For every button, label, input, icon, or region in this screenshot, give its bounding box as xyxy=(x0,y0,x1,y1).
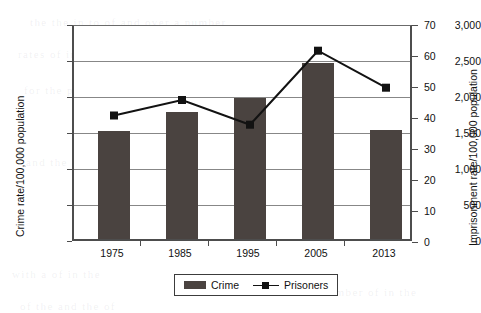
x-axis-separator xyxy=(140,241,141,246)
x-axis-label-2013: 2013 xyxy=(354,247,414,259)
y-axis-left-title: Crime rate/100,000 population xyxy=(14,96,26,237)
y-axis-left-tick-1000: 1,000 xyxy=(419,164,481,174)
x-axis-label-2005: 2005 xyxy=(286,247,346,259)
x-axis-separator xyxy=(344,241,345,246)
background-bleed-text: of the and the of xyxy=(20,300,116,312)
x-axis-separator xyxy=(276,241,277,246)
y-axis-right-tick-0: 0 xyxy=(424,237,430,247)
y-axis-right-tick-70: 70 xyxy=(424,20,436,30)
y-axis-right-tick-40: 40 xyxy=(424,113,436,123)
y-axis-right-tick-10: 10 xyxy=(424,206,436,216)
legend-label-prisoners: Prisoners xyxy=(284,279,328,291)
legend-item-crime: Crime xyxy=(184,279,239,291)
line-square-swatch-icon xyxy=(253,281,279,290)
x-axis-label-1975: 1975 xyxy=(82,247,142,259)
prisoners-line-path xyxy=(114,51,386,125)
crime-imprisonment-chart: the the in to of and over a number rates… xyxy=(0,0,481,313)
y-axis-left-tick-2000: 2,000 xyxy=(419,92,481,102)
y-axis-right-tick-60: 60 xyxy=(424,51,436,61)
prisoners-marker-1975 xyxy=(110,112,118,120)
plot-area xyxy=(72,25,412,241)
x-axis-label-1985: 1985 xyxy=(150,247,210,259)
prisoners-marker-2013 xyxy=(382,84,390,92)
prisoners-marker-1995 xyxy=(246,121,254,129)
y-axis-left-tickmark xyxy=(67,241,72,242)
prisoners-marker-1985 xyxy=(178,96,186,104)
prisoners-marker-2005 xyxy=(314,47,322,55)
y-axis-right-tickmark xyxy=(412,242,418,243)
legend-item-prisoners: Prisoners xyxy=(253,279,328,291)
y-axis-right-tick-20: 20 xyxy=(424,175,436,185)
bar-swatch-icon xyxy=(184,281,206,289)
x-axis-label-1995: 1995 xyxy=(218,247,278,259)
y-axis-right-tick-50: 50 xyxy=(424,82,436,92)
y-axis-right-tick-30: 30 xyxy=(424,144,436,154)
legend-label-crime: Crime xyxy=(211,279,239,291)
background-bleed-text: with a of in the xyxy=(12,268,101,280)
chart-legend: Crime Prisoners xyxy=(174,274,338,296)
y-axis-left-tick-1500: 1,500 xyxy=(419,128,481,138)
prisoners-line-series xyxy=(74,26,414,242)
x-axis-separator xyxy=(208,241,209,246)
